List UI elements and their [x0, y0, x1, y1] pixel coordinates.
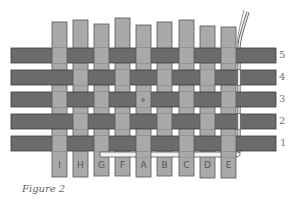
column-label-c: C	[179, 161, 194, 170]
row-label-3: 3	[279, 94, 285, 104]
weave-graphic	[0, 0, 289, 200]
row-label-4: 4	[279, 72, 285, 82]
column-label-d: D	[200, 161, 215, 170]
column-label-g: G	[94, 161, 109, 170]
column-label-b: B	[157, 161, 172, 170]
column-label-a: A	[136, 161, 151, 170]
column-label-h: H	[73, 161, 88, 170]
column-label-f: F	[115, 161, 130, 170]
row-label-5: 5	[279, 50, 285, 60]
horizontal-strip-4	[11, 70, 276, 85]
column-label-e: E	[221, 161, 236, 170]
horizontal-strip-2	[11, 114, 276, 129]
row-label-1: 1	[280, 138, 286, 148]
bottom-binding-strand	[100, 152, 240, 157]
column-label-i: I	[52, 161, 67, 170]
weaving-diagram: 5 4 3 2 1 I H G F A B C D E Figure 2	[0, 0, 289, 200]
row-label-2: 2	[279, 116, 285, 126]
figure-caption: Figure 2	[22, 183, 65, 194]
